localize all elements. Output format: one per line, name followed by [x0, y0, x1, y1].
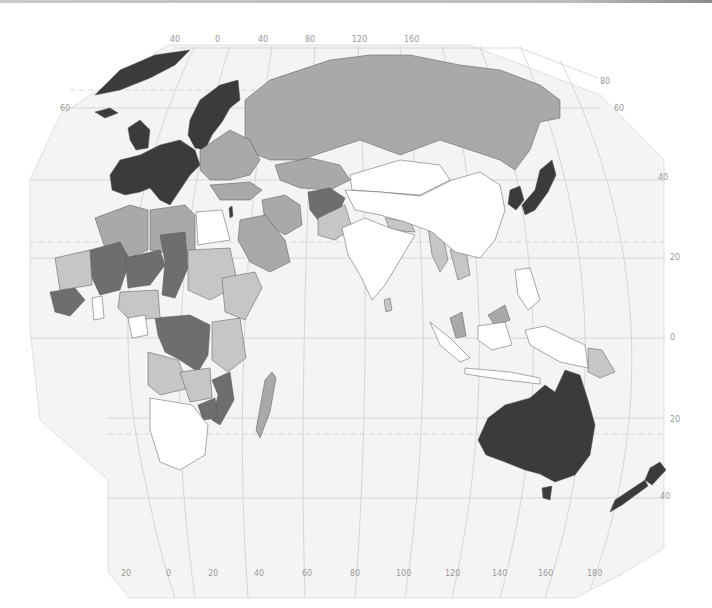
right-lat-label: 40 — [658, 173, 668, 182]
ghana — [92, 296, 104, 320]
top-lon-label: 80 — [305, 35, 315, 44]
top-longitude-labels: 40 0 40 80 120 160 — [170, 35, 419, 44]
world-map: 40 0 40 80 120 160 20 0 20 40 60 80 100 … — [0, 0, 712, 608]
top-lon-label: 40 — [258, 35, 268, 44]
bottom-lon-label: 40 — [254, 569, 264, 578]
right-lat-label: 0 — [670, 333, 675, 342]
top-lon-label: 160 — [404, 35, 419, 44]
top-lon-label: 40 — [170, 35, 180, 44]
bottom-lon-label: 80 — [350, 569, 360, 578]
right-lat-label: 80 — [600, 77, 610, 86]
bottom-lon-label: 120 — [445, 569, 460, 578]
tasmania — [542, 486, 552, 500]
right-lat-label: 60 — [614, 104, 624, 113]
bottom-lon-label: 140 — [492, 569, 507, 578]
bottom-lon-label: 60 — [302, 569, 312, 578]
bottom-lon-label: 180 — [587, 569, 602, 578]
top-lon-label: 120 — [352, 35, 367, 44]
right-lat-label: 20 — [670, 253, 680, 262]
bottom-lon-label: 160 — [538, 569, 553, 578]
israel — [229, 206, 233, 218]
left-latitude-labels: 60 — [60, 104, 70, 113]
right-lat-label: 40 — [660, 492, 670, 501]
bottom-lon-label: 0 — [166, 569, 171, 578]
top-lon-label: 0 — [215, 35, 220, 44]
bottom-lon-label: 20 — [121, 569, 131, 578]
bottom-lon-label: 100 — [396, 569, 411, 578]
left-lat-label: 60 — [60, 104, 70, 113]
bottom-lon-label: 20 — [208, 569, 218, 578]
right-lat-label: 20 — [670, 415, 680, 424]
